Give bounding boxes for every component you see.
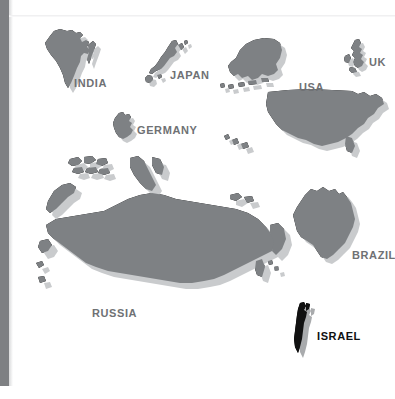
country-label-russia: RUSSIA [92, 307, 137, 319]
country-label-brazil: BRAZIL [352, 249, 395, 261]
country-shape-japan[interactable] [142, 39, 194, 93]
left-scan-bar-fade [9, 0, 13, 386]
country-label-uk: UK [369, 56, 386, 68]
country-label-india: INDIA [74, 77, 107, 89]
country-label-israel: ISRAEL [317, 330, 361, 342]
map-canvas: INDIA JAPAN [0, 0, 395, 399]
country-label-germany: GERMANY [137, 124, 197, 136]
country-shape-russia[interactable] [34, 155, 294, 321]
country-shape-brazil[interactable] [285, 185, 369, 277]
top-scan-line-secondary [9, 16, 395, 17]
country-label-usa: USA [299, 81, 324, 93]
country-label-japan: JAPAN [170, 69, 209, 81]
left-scan-bar [0, 0, 9, 386]
